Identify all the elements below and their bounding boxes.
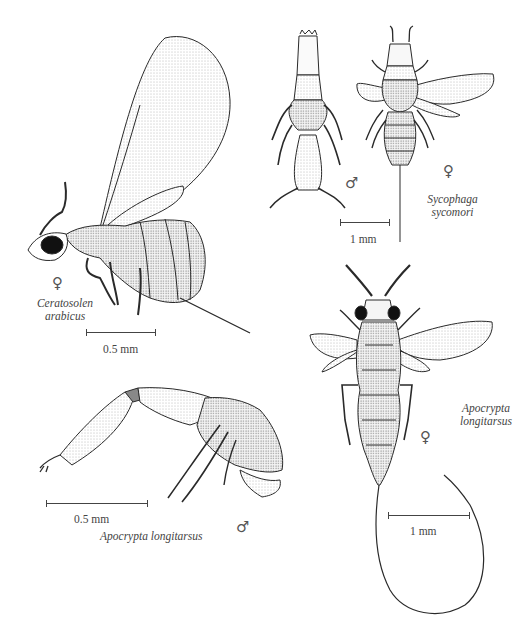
apocrypta-longitarsus-female-drawing xyxy=(310,265,492,613)
female-symbol: ♀ xyxy=(52,276,63,291)
sycophaga-sycomori-male-drawing xyxy=(270,30,345,208)
female-symbol: ♀ xyxy=(420,430,431,445)
species-label-apocrypta-male: Apocrypta longitarsus xyxy=(100,530,203,543)
illustration-plate: ♀ Ceratosolen arabicus 0.5 mm ♂ ♀ Sycoph… xyxy=(0,0,530,621)
female-symbol: ♀ xyxy=(443,164,454,179)
scale-label: 1 mm xyxy=(350,233,377,246)
scale-bar xyxy=(46,503,148,511)
species-label-apocrypta-female: Apocrypta longitarsus xyxy=(451,402,521,428)
scale-label: 0.5 mm xyxy=(74,513,109,526)
scale-bar xyxy=(340,222,390,230)
species-label-ceratosolen: Ceratosolen arabicus xyxy=(25,297,105,323)
scale-label: 0.5 mm xyxy=(103,343,138,356)
apocrypta-longitarsus-male-drawing xyxy=(40,388,283,502)
species-label-sycophaga: Sycophaga sycomori xyxy=(420,193,485,219)
scale-bar xyxy=(388,515,470,523)
scale-label: 1 mm xyxy=(410,525,437,538)
male-symbol: ♂ xyxy=(345,176,358,191)
male-symbol: ♂ xyxy=(236,520,249,535)
scale-bar xyxy=(86,332,156,340)
